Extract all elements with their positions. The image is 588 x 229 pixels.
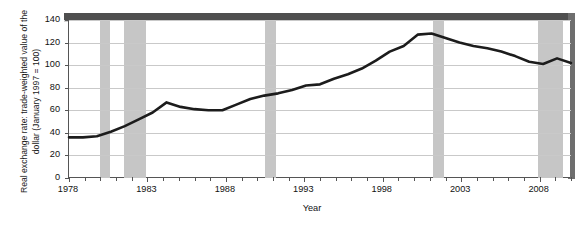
x-axis-title: Year (290, 203, 334, 213)
x-tick-label: 1998 (362, 184, 402, 194)
y-tick-label: 60 (34, 104, 60, 114)
x-tick-label: 1978 (48, 184, 88, 194)
y-tick-label: 140 (34, 14, 60, 24)
y-tick-label: 100 (34, 59, 60, 69)
y-axis-tick (65, 178, 69, 179)
exchange-rate-line (69, 34, 571, 138)
x-tick-label: 1993 (283, 184, 323, 194)
x-tick-label: 1983 (126, 184, 166, 194)
chart-figure: Real exchange rate: trade-weighted value… (0, 0, 588, 229)
top-page-rule (64, 13, 575, 20)
y-tick-label: 120 (34, 37, 60, 47)
series-line-layer (69, 20, 571, 178)
x-tick-label: 1988 (205, 184, 245, 194)
y-tick-label: 80 (34, 82, 60, 92)
y-tick-label: 20 (34, 149, 60, 159)
y-tick-label: 0 (34, 172, 60, 182)
plot-area (68, 20, 570, 178)
y-tick-label: 40 (34, 127, 60, 137)
x-axis-tick (571, 177, 572, 181)
x-tick-label: 2003 (440, 184, 480, 194)
x-tick-label: 2008 (519, 184, 559, 194)
y-axis-title-container: Real exchange rate: trade-weighted value… (0, 0, 40, 200)
